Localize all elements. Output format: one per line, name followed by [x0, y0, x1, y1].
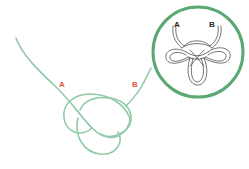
strand-a — [16, 38, 130, 138]
loop-left — [64, 94, 130, 133]
label-b: B — [132, 81, 138, 89]
inset-label-b: B — [209, 21, 215, 29]
loose-knot — [16, 38, 151, 154]
inset-label-a: A — [174, 21, 180, 29]
knot-diagram: A B A B — [0, 0, 249, 169]
strand-b — [126, 68, 151, 106]
label-a: A — [59, 81, 65, 89]
